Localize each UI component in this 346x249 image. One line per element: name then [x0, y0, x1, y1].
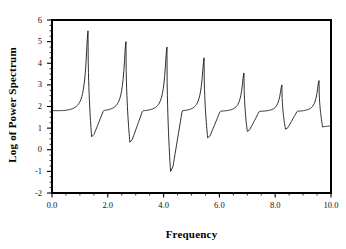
x-tick-label: 4.0 — [151, 200, 177, 210]
x-tick-label: 10.0 — [318, 200, 344, 210]
y-tick-label: 6 — [26, 15, 42, 25]
x-axis-title-wrapper: Frequency — [52, 224, 331, 242]
y-tick-label: 0 — [26, 144, 42, 154]
chart-figure: Log of Power Spectrum Frequency 6543210-… — [0, 0, 346, 249]
y-tick-label: -2 — [26, 188, 42, 198]
y-tick-label: 4 — [26, 58, 42, 68]
y-tick-label: 3 — [26, 79, 42, 89]
y-axis-title: Log of Power Spectrum — [6, 47, 18, 163]
y-tick-label: 5 — [26, 36, 42, 46]
x-tick-label: 0.0 — [39, 200, 65, 210]
plot-background — [52, 20, 331, 193]
x-axis-title: Frequency — [166, 228, 218, 240]
x-tick-label: 8.0 — [262, 200, 288, 210]
y-tick-label: -1 — [26, 166, 42, 176]
plot-area — [0, 0, 346, 249]
x-tick-label: 2.0 — [95, 200, 121, 210]
y-tick-label: 1 — [26, 123, 42, 133]
y-tick-label: 2 — [26, 101, 42, 111]
x-tick-label: 6.0 — [206, 200, 232, 210]
y-axis-title-wrapper: Log of Power Spectrum — [0, 0, 24, 210]
